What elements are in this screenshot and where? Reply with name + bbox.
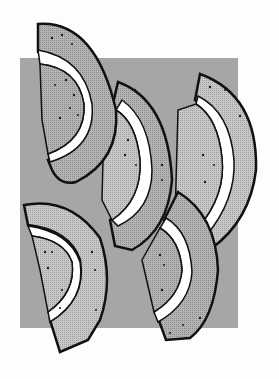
melon-slices-art <box>0 0 279 379</box>
top-left-slice <box>38 24 116 183</box>
melon-illustration <box>0 0 279 379</box>
